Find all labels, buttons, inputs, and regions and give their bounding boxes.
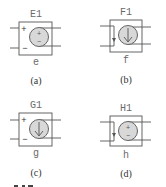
dependent-sources-figure: E1 + − + − e (a) F1 f (b) G1 xyxy=(0,0,166,187)
component-name: H1 xyxy=(120,103,132,114)
control-plus-sign: + xyxy=(21,115,26,125)
panel-caption: (a) xyxy=(30,75,41,87)
panel-caption: (d) xyxy=(120,168,132,180)
panel-b: F1 f (b) xyxy=(100,7,151,86)
pin-label: e xyxy=(33,57,39,68)
pin-label: f xyxy=(123,55,129,66)
control-current-arrow-icon xyxy=(112,133,116,137)
component-name: G1 xyxy=(30,100,42,111)
panel-caption: (b) xyxy=(120,74,132,86)
panel-c: G1 + − g (c) xyxy=(10,100,61,179)
source-plus-sign: + xyxy=(37,30,41,37)
control-current-arrow-icon xyxy=(112,38,116,42)
panel-caption: (c) xyxy=(30,167,41,179)
source-minus-sign: − xyxy=(126,132,130,139)
component-name: F1 xyxy=(120,7,132,18)
control-current-path xyxy=(100,26,114,46)
source-plus-sign: + xyxy=(126,124,130,131)
panel-d: H1 + − h (d) xyxy=(100,103,151,180)
panel-a: E1 + − + − e (a) xyxy=(10,9,61,87)
control-minus-sign: − xyxy=(22,43,27,53)
control-minus-sign: − xyxy=(22,134,27,144)
pin-label: g xyxy=(33,148,39,159)
clipped-text-fragment xyxy=(14,185,33,187)
control-plus-sign: + xyxy=(21,24,26,34)
pin-label: h xyxy=(123,150,129,161)
source-minus-sign: − xyxy=(37,38,41,45)
component-name: E1 xyxy=(30,9,42,20)
control-current-path xyxy=(100,122,114,141)
